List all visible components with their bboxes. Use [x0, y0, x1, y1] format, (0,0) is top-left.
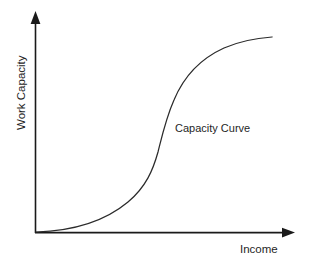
capacity-curve-chart: Work Capacity Income Capacity Curve [0, 0, 312, 272]
curve-annotation-label: Capacity Curve [175, 122, 250, 134]
y-axis-label: Work Capacity [15, 55, 27, 130]
x-axis-label: Income [240, 243, 278, 255]
